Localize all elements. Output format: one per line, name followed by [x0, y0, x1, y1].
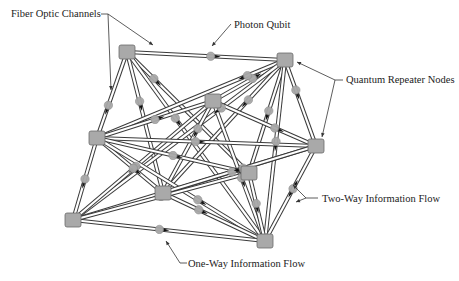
repeater-node-n7: [241, 166, 257, 180]
photon-qubit: [191, 137, 205, 145]
photon-qubit: [238, 71, 251, 79]
repeater-node-n4: [89, 131, 105, 145]
callout-arrowhead-icon: [321, 133, 325, 137]
fiber-channel: [97, 52, 127, 138]
callout-leader: [297, 62, 343, 80]
photon-qubit: [193, 124, 202, 137]
repeater-node-n3: [205, 94, 221, 108]
fiber-channel: [127, 52, 249, 173]
photon-qubit: [171, 114, 181, 126]
quantum-network-diagram: [0, 0, 459, 281]
photon-qubit: [242, 96, 253, 108]
repeater-node-n5: [308, 139, 324, 153]
label-quantum-repeater-nodes: Quantum Repeater Nodes: [346, 74, 454, 85]
fiber-optic-channels: [73, 52, 316, 241]
photon-qubit: [271, 124, 284, 132]
callout-leader: [166, 241, 187, 263]
repeater-node-n6: [155, 186, 171, 200]
callout-leader: [108, 14, 113, 90]
callout-arrowhead-icon: [149, 41, 153, 45]
label-one-way-information-flow: One-Way Information Flow: [188, 258, 305, 269]
callout-leader: [321, 80, 335, 137]
repeater-node-n9: [257, 234, 273, 248]
fiber-channel: [127, 52, 285, 60]
fiber-channel: [97, 60, 285, 138]
photon-qubit: [207, 52, 221, 60]
callout-leader: [212, 24, 231, 46]
photon-qubit: [194, 196, 207, 205]
label-fiber-optic-channels: Fiber Optic Channels: [11, 8, 101, 19]
photon-qubit: [104, 101, 112, 115]
repeater-node-n8: [65, 213, 81, 227]
label-photon-qubit: Photon Qubit: [234, 19, 290, 30]
repeater-node-n1: [119, 45, 135, 59]
callout-leader: [296, 198, 306, 202]
photon-qubit: [292, 86, 300, 100]
callout-arrowhead-icon: [166, 241, 170, 245]
repeater-node-n2: [277, 53, 293, 67]
label-two-way-information-flow: Two-Way Information Flow: [322, 193, 440, 204]
